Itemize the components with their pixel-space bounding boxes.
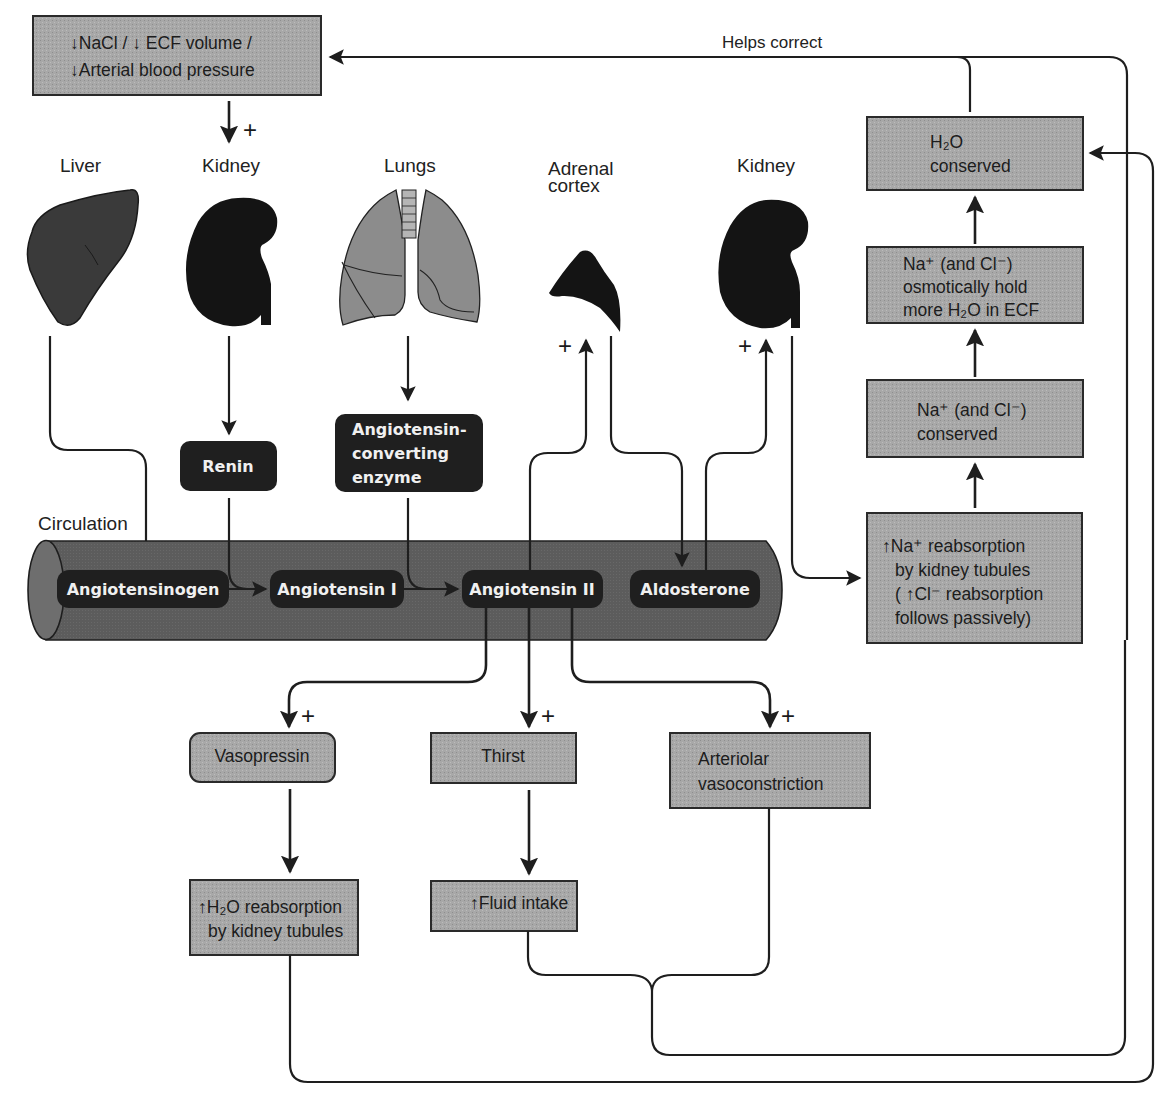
helps-correct-label: Helps correct <box>722 33 822 52</box>
angiotensinogen-label: Angiotensinogen <box>67 580 220 599</box>
plus-sign: + <box>243 116 257 143</box>
reabsorption-line-1: ↑Na⁺ reabsorption <box>882 536 1025 556</box>
vasoconstriction-line-2: vasoconstriction <box>698 774 823 794</box>
angiotensin-ii-pill: Angiotensin II <box>462 570 603 608</box>
ace-box: Angiotensin- converting enzyme <box>335 414 483 492</box>
liver-label: Liver <box>60 155 102 176</box>
h2o-conserved-line-2: conserved <box>930 156 1011 176</box>
osmotic-line-1: Na⁺ (and Cl⁻) <box>903 254 1012 274</box>
renin-box: Renin <box>180 441 277 491</box>
na-conserved-box: Na⁺ (and Cl⁻) conserved <box>867 380 1083 457</box>
ace-label-2: converting <box>352 444 449 463</box>
osmotic-box: Na⁺ (and Cl⁻) osmotically hold more H₂O … <box>867 247 1083 323</box>
thirst-label: Thirst <box>481 746 525 766</box>
osmotic-line-2: osmotically hold <box>903 277 1028 297</box>
plus-sign: + <box>301 702 315 729</box>
h2o-conserved-to-feedback-line <box>957 57 970 112</box>
renin-label: Renin <box>202 457 253 476</box>
na-reabsorption-box: ↑Na⁺ reabsorption by kidney tubules ( ↑C… <box>867 513 1082 643</box>
lungs-label: Lungs <box>384 155 436 176</box>
reabsorption-line-4: follows passively) <box>895 608 1031 628</box>
plus-sign: + <box>738 332 752 359</box>
adrenal-cortex-icon <box>549 251 620 332</box>
adrenal-label-2: cortex <box>548 175 600 196</box>
kidney-label: Kidney <box>202 155 261 176</box>
vasoconstriction-box: Arteriolar vasoconstriction <box>670 733 870 808</box>
na-conserved-line-2: conserved <box>917 424 998 444</box>
angiotensin-i-label: Angiotensin I <box>277 580 397 599</box>
aldosterone-to-kidney-arrow <box>706 340 766 570</box>
plus-sign: + <box>781 702 795 729</box>
ang-ii-to-adrenal-arrow <box>530 340 586 570</box>
ace-label-1: Angiotensin- <box>352 420 467 439</box>
plus-sign: + <box>558 332 572 359</box>
raas-diagram: ↓NaCl / ↓ ECF volume / ↓Arterial blood p… <box>0 0 1171 1111</box>
liver-icon <box>27 190 138 325</box>
lungs-icon <box>340 190 480 325</box>
trigger-line-1: ↓NaCl / ↓ ECF volume / <box>70 33 252 53</box>
fluid-intake-label: ↑Fluid intake <box>470 893 568 913</box>
volume-pressure-return-line <box>652 640 1125 1055</box>
ace-label-3: enzyme <box>352 468 422 487</box>
h2o-reabsorption-box: ↑H₂O reabsorption by kidney tubules <box>190 880 358 955</box>
circulation-label: Circulation <box>38 513 128 534</box>
kidney-label-2: Kidney <box>737 155 796 176</box>
kidney-to-na-reabsorption-arrow <box>792 336 860 578</box>
trigger-box: ↓NaCl / ↓ ECF volume / ↓Arterial blood p… <box>33 16 321 95</box>
aldosterone-label: Aldosterone <box>640 580 750 599</box>
angiotensin-ii-label: Angiotensin II <box>469 580 594 599</box>
reabsorption-line-2: by kidney tubules <box>895 560 1030 580</box>
angiotensin-i-pill: Angiotensin I <box>270 570 404 608</box>
thirst-box: Thirst <box>431 733 576 783</box>
na-conserved-line-1: Na⁺ (and Cl⁻) <box>917 400 1026 420</box>
trigger-line-2: ↓Arterial blood pressure <box>70 60 255 80</box>
aldosterone-pill: Aldosterone <box>630 570 760 608</box>
kidney-icon <box>186 198 277 326</box>
h2o-conserved-box: H₂O conserved <box>867 117 1083 190</box>
reabsorption-line-3: ( ↑Cl⁻ reabsorption <box>895 584 1043 604</box>
kidney-icon-2 <box>718 200 808 328</box>
adrenal-to-aldosterone-arrow <box>611 336 682 566</box>
vasoconstriction-merge-line <box>652 808 769 990</box>
h2o-reabsorption-line-1: ↑H₂O reabsorption <box>198 897 342 917</box>
angiotensinogen-pill: Angiotensinogen <box>57 570 229 608</box>
fluid-intake-box: ↑Fluid intake <box>431 881 577 931</box>
osmotic-line-3: more H₂O in ECF <box>903 300 1039 320</box>
fluid-intake-merge-line <box>528 931 652 990</box>
h2o-conserved-line-1: H₂O <box>930 132 963 152</box>
plus-sign: + <box>541 702 555 729</box>
vasopressin-label: Vasopressin <box>214 746 309 766</box>
vasopressin-box: Vasopressin <box>190 733 335 782</box>
vasoconstriction-line-1: Arteriolar <box>698 749 769 769</box>
h2o-reabsorption-line-2: by kidney tubules <box>208 921 343 941</box>
